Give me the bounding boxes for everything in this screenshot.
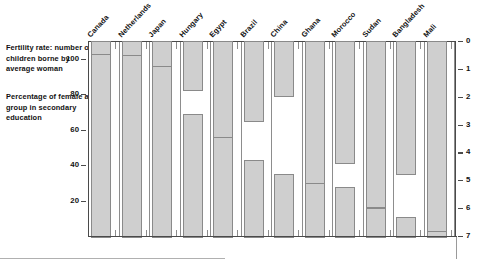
bar-education-canada	[91, 54, 111, 238]
category-separator	[271, 42, 272, 237]
left-tick-mark	[81, 201, 86, 202]
category-label-hungary: Hungary	[177, 10, 205, 39]
category-separator	[210, 42, 211, 237]
left-tick-mark	[81, 130, 86, 131]
left-tick-label-100: 100	[66, 54, 79, 63]
category-label-brazil: Brazil	[238, 18, 259, 39]
axis-tail	[456, 237, 457, 259]
right-tick-label-1: 1	[466, 64, 470, 73]
bar-education-ghana	[305, 183, 325, 238]
plot-area	[88, 41, 456, 237]
right-tick-label-3: 3	[466, 120, 470, 129]
category-label-egypt: Egypt	[207, 17, 228, 39]
top-tick	[207, 42, 208, 49]
left-tick-mark	[81, 59, 86, 60]
top-tick	[237, 42, 238, 49]
category-label-mali: Mali	[421, 22, 438, 39]
category-separator	[332, 42, 333, 237]
right-tick-mark	[458, 41, 463, 42]
category-label-bangladesh: Bangladesh	[390, 1, 426, 39]
bar-education-morocco	[335, 187, 355, 238]
right-tick-label-4: 4	[466, 147, 470, 156]
left-tick-mark	[81, 165, 86, 166]
axis-baseline	[88, 236, 457, 237]
bar-education-china	[274, 174, 294, 238]
bar-education-japan	[152, 66, 172, 238]
category-separator	[393, 42, 394, 237]
left-tick-label-60: 60	[70, 125, 79, 134]
top-tick	[359, 42, 360, 49]
category-separator	[149, 42, 150, 237]
left-tick-mark	[81, 94, 86, 95]
top-tick	[268, 42, 269, 49]
top-tick	[329, 42, 330, 49]
bar-fertility-sudan	[366, 41, 386, 208]
right-tick-mark	[458, 236, 463, 237]
category-label-sudan: Sudan	[360, 16, 382, 39]
bar-fertility-hungary	[183, 41, 203, 91]
right-tick-label-5: 5	[466, 175, 470, 184]
top-tick	[420, 42, 421, 49]
top-tick	[115, 42, 116, 49]
category-separator	[454, 42, 455, 237]
top-tick	[451, 42, 452, 49]
category-separator	[302, 42, 303, 237]
category-separator	[424, 42, 425, 237]
right-tick-mark	[458, 152, 463, 153]
category-label-canada: Canada	[85, 13, 110, 39]
right-tick-label-2: 2	[466, 92, 470, 101]
chart-figure: Fertility rate: number of children borne…	[0, 0, 488, 277]
bar-education-sudan	[366, 208, 386, 238]
category-labels: CanadaNetherlandsJapanHungaryEgyptBrazil…	[88, 0, 468, 41]
bar-fertility-morocco	[335, 41, 355, 164]
left-tick-label-80: 80	[70, 89, 79, 98]
right-tick-mark	[458, 208, 463, 209]
bar-fertility-mali	[427, 41, 447, 236]
category-separator	[180, 42, 181, 237]
right-tick-mark	[458, 69, 463, 70]
bar-education-brazil	[244, 160, 264, 238]
category-separator	[363, 42, 364, 237]
right-tick-mark	[458, 97, 463, 98]
left-tick-label-20: 20	[70, 196, 79, 205]
bar-education-hungary	[183, 114, 203, 238]
right-tick-label-6: 6	[466, 203, 470, 212]
bar-fertility-china	[274, 41, 294, 97]
bar-education-bangladesh	[396, 217, 416, 238]
right-tick-mark	[458, 180, 463, 181]
left-axis-percentage: 10080604020	[56, 41, 86, 237]
category-label-morocco: Morocco	[329, 10, 357, 39]
top-tick	[176, 42, 177, 49]
footer-rule	[0, 258, 225, 259]
bar-education-netherlands	[122, 55, 142, 238]
right-axis-fertility: 01234567	[458, 41, 486, 237]
top-tick	[146, 42, 147, 49]
bar-education-egypt	[213, 137, 233, 238]
left-tick-label-40: 40	[70, 160, 79, 169]
bar-fertility-brazil	[244, 41, 264, 122]
top-tick	[390, 42, 391, 49]
category-separator	[241, 42, 242, 237]
category-label-ghana: Ghana	[299, 16, 322, 39]
bar-fertility-egypt	[213, 41, 233, 150]
bar-fertility-bangladesh	[396, 41, 416, 175]
top-tick	[298, 42, 299, 49]
category-label-japan: Japan	[146, 17, 168, 39]
category-separator	[119, 42, 120, 237]
right-tick-mark	[458, 125, 463, 126]
right-tick-label-7: 7	[466, 231, 470, 240]
category-label-china: China	[268, 17, 289, 39]
